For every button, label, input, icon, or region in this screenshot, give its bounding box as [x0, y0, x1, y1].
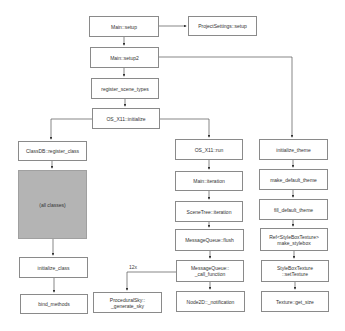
node-bind-methods: bind_methods	[20, 294, 88, 314]
node-initialize-class: initialize_class	[19, 257, 88, 278]
node-os-x11-initialize: OS_X11::initialize	[92, 108, 160, 129]
edge-label-call-count: 12x	[129, 264, 137, 270]
node-all-classes: (all classes)	[18, 170, 87, 239]
node-stylebox-set-texture: StyleBoxTexture ::setTexture	[261, 260, 329, 282]
node-texture-get-size: Texture::get_size	[261, 291, 329, 312]
node-initialize-theme: initialize_theme	[259, 139, 328, 160]
node-make-stylebox: Ref<StyleBoxTexture> make_stylebox	[260, 228, 328, 251]
node-main-setup: Main::setup	[89, 16, 159, 37]
node-os-x11-run: OS_X11::run	[175, 139, 243, 160]
node-main-setup2: Main::setup2	[90, 47, 159, 68]
node-main-iteration: Main::iteration	[175, 171, 243, 191]
node-messagequeue-flush: MessageQueue::flush	[175, 229, 244, 251]
node-messagequeue-call-function: MessageQueue:: _call_function	[176, 260, 244, 282]
node-project-settings-setup: ProjectSettings::setup	[188, 16, 257, 36]
node-scenetree-iteration: SceneTree::iteration	[175, 201, 243, 222]
node-make-default-theme: make_default_theme	[259, 169, 328, 190]
call-graph-diagram: Main::setup ProjectSettings::setup Main:…	[0, 0, 345, 331]
node-proceduralsky-generate-sky: ProceduralSky:: _generate_sky	[93, 292, 162, 313]
node-fill-default-theme: fill_default_theme	[259, 199, 328, 220]
node-node2d-notification: Node2D::_notification	[176, 291, 245, 312]
node-register-scene-types: register_scene_types	[91, 78, 159, 99]
node-classdb-register-class: ClassDB::register_class	[18, 141, 87, 161]
